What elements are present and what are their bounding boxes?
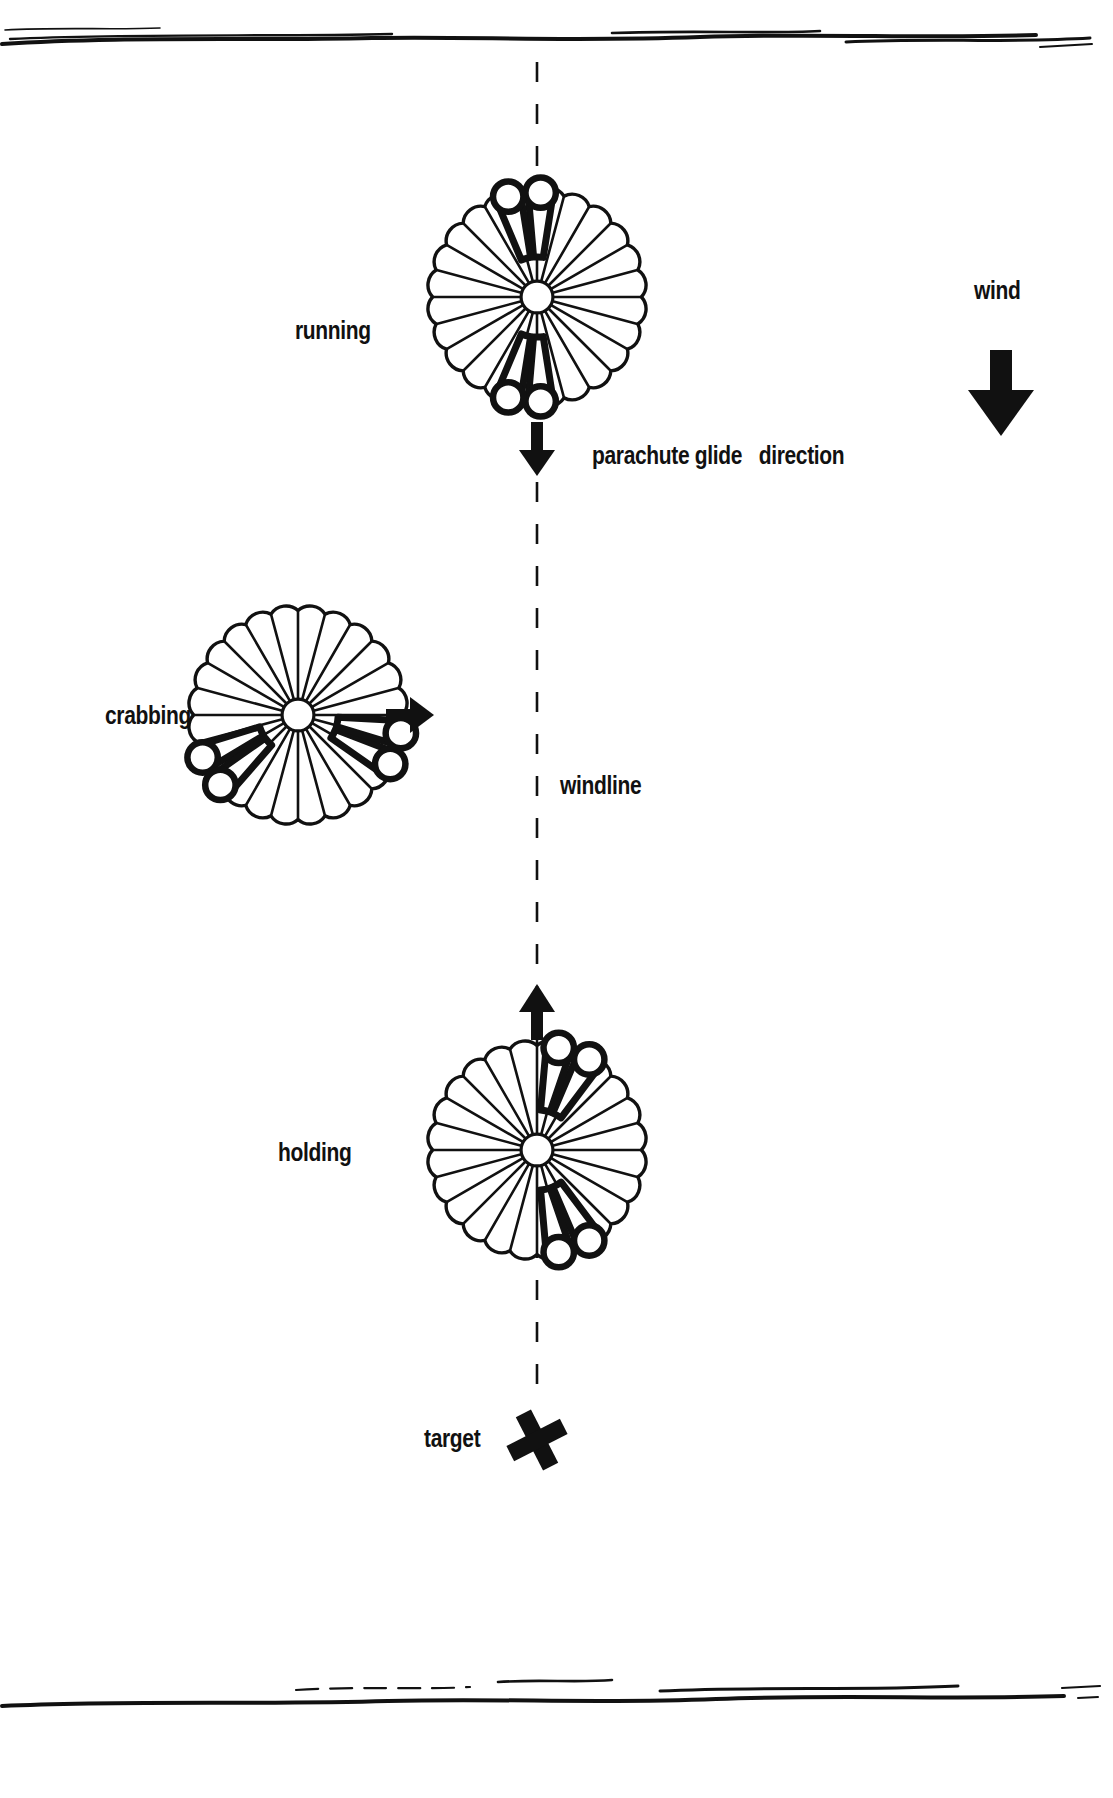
canopy-vent-ring bbox=[521, 281, 553, 313]
steering-slot-lobe bbox=[574, 1044, 604, 1074]
steering-slot-lobe bbox=[574, 1225, 604, 1255]
steering-slot-lobe bbox=[525, 177, 555, 207]
canopy-vent-ring bbox=[282, 699, 314, 731]
parachute-canopy-holding bbox=[428, 1033, 646, 1268]
steering-slot-lobe bbox=[544, 1033, 574, 1063]
label-crabbing: crabbing bbox=[105, 703, 191, 728]
steering-slot-lobe bbox=[544, 1237, 574, 1267]
steering-slot-lobe bbox=[493, 181, 523, 211]
page-rule-bottom bbox=[2, 1680, 1100, 1706]
target-x-mark bbox=[503, 1406, 572, 1475]
label-target: target bbox=[424, 1426, 480, 1451]
running-glide-arrow bbox=[519, 422, 555, 476]
steering-slot-lobe bbox=[493, 382, 523, 412]
label-holding: holding bbox=[278, 1140, 351, 1165]
label-running: running bbox=[295, 318, 371, 343]
holding-glide-arrow bbox=[519, 984, 555, 1040]
label-windline: windline bbox=[560, 773, 641, 798]
label-glide-direction: parachute glide direction bbox=[592, 443, 844, 468]
diagram-canvas: running crabbing holding windline target… bbox=[0, 0, 1113, 1798]
canopy-vent-ring bbox=[521, 1134, 553, 1166]
label-wind: wind bbox=[974, 278, 1020, 303]
steering-slot-lobe bbox=[375, 749, 405, 779]
wind-arrow bbox=[968, 350, 1034, 436]
diagram-artwork bbox=[0, 0, 1113, 1798]
steering-slot-lobe bbox=[525, 386, 555, 416]
parachute-canopy-running bbox=[428, 177, 646, 416]
parachute-canopy-crabbing bbox=[187, 606, 416, 824]
page-rule-top bbox=[2, 28, 1092, 47]
steering-slot-lobe bbox=[205, 770, 235, 800]
